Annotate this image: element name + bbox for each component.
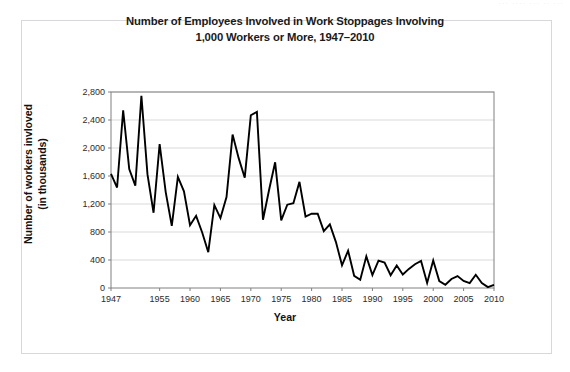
- x-tick-label: 1955: [150, 294, 170, 304]
- y-tick-label: 800: [90, 227, 105, 237]
- y-tick-label: 2,800: [82, 87, 105, 97]
- x-tick-label: 1947: [101, 294, 121, 304]
- x-tick-label: 2010: [484, 294, 504, 304]
- plot-area-border: [111, 92, 494, 288]
- y-tick-label: 400: [90, 255, 105, 265]
- y-tick-label: 1,600: [82, 171, 105, 181]
- x-tick-label: 1980: [302, 294, 322, 304]
- y-tick-label: 1,200: [82, 199, 105, 209]
- x-tick-label: 1995: [393, 294, 413, 304]
- x-tick-label: 1990: [362, 294, 382, 304]
- x-tick-label: 2000: [423, 294, 443, 304]
- y-tick-label: 2,000: [82, 143, 105, 153]
- data-series-line: [111, 96, 494, 287]
- x-tick-label: 1975: [271, 294, 291, 304]
- y-tick-label: 2,400: [82, 115, 105, 125]
- y-tick-label: 0: [100, 283, 105, 293]
- x-tick-label: 1985: [332, 294, 352, 304]
- x-tick-label: 2005: [454, 294, 474, 304]
- line-chart-plot: 04008001,2001,6002,0002,4002,80019471955…: [0, 0, 570, 372]
- x-tick-label: 1965: [210, 294, 230, 304]
- x-tick-label: 1960: [180, 294, 200, 304]
- x-tick-label: 1970: [241, 294, 261, 304]
